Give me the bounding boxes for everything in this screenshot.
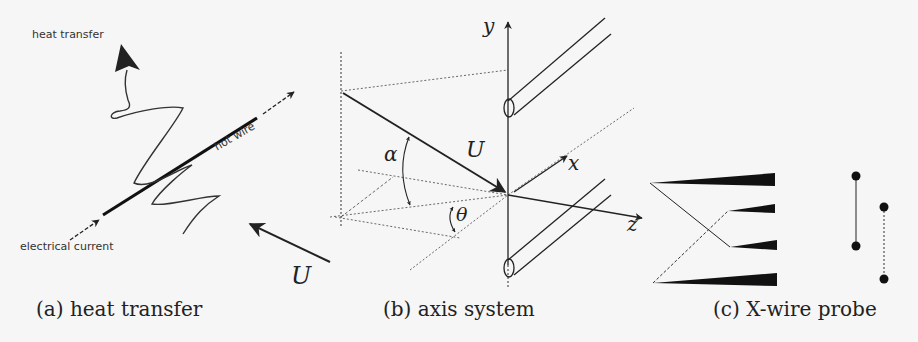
x-axis xyxy=(514,156,567,192)
electrical-current-label: electrical current xyxy=(20,240,114,253)
velocity-label-b: U xyxy=(466,137,485,162)
panel-c-x-wire-probe xyxy=(650,172,889,287)
prong-bottom-line-1 xyxy=(508,179,605,260)
wire-end-dot xyxy=(852,242,861,251)
prong-top-line-2 xyxy=(514,34,611,115)
projection-line xyxy=(341,177,393,217)
electrical-current-arrow xyxy=(70,220,99,240)
prong-wedge-2 xyxy=(728,204,775,213)
panel-a-heat-transfer xyxy=(70,44,330,262)
velocity-arrow-a xyxy=(250,224,330,262)
wire-end-dot xyxy=(880,203,889,212)
z-axis-label: z xyxy=(627,212,638,236)
wire-end-dot xyxy=(880,275,889,284)
prong-bottom-end xyxy=(504,259,514,277)
y-axis-label: y xyxy=(483,14,494,38)
caption-c: (c) X-wire probe xyxy=(713,297,877,321)
prong-top-end xyxy=(504,99,514,117)
x-axis-label: x xyxy=(568,151,579,175)
theta-angle-arc xyxy=(450,207,455,232)
wire-end-dot xyxy=(852,172,861,181)
prong-top-line-1 xyxy=(508,18,605,101)
caption-a: (a) heat transfer xyxy=(36,297,202,321)
projection-line xyxy=(358,170,508,195)
prong-bottom-line-2 xyxy=(514,195,611,275)
wire-dashed xyxy=(653,211,728,283)
projection-line xyxy=(335,217,460,238)
hotwire-figure: heat transfer hot wire electrical curren… xyxy=(0,0,918,342)
prong-wedge-1 xyxy=(650,173,775,186)
heat-transfer-arrowhead xyxy=(115,44,140,72)
projection-line xyxy=(341,70,508,91)
caption-b: (b) axis system xyxy=(383,297,535,321)
hot-wire-current-out-arrow xyxy=(263,92,294,114)
wire-solid xyxy=(650,183,730,247)
heat-transfer-label: heat transfer xyxy=(32,28,104,41)
panel-b-axis-system xyxy=(330,18,642,288)
theta-label: θ xyxy=(456,203,467,225)
prong-wedge-4 xyxy=(653,273,777,286)
figure-drawing xyxy=(0,0,918,342)
z-axis xyxy=(508,195,642,218)
prong-wedge-3 xyxy=(730,240,777,250)
alpha-angle-arc xyxy=(403,137,410,205)
alpha-label: α xyxy=(384,142,398,166)
projection-line xyxy=(330,195,508,217)
velocity-label-a: U xyxy=(291,262,311,290)
